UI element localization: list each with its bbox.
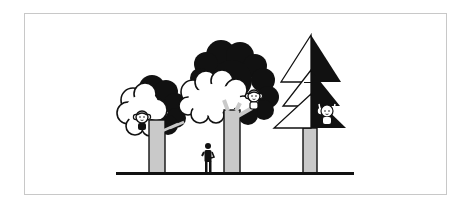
ground-line	[116, 172, 354, 175]
middle-trunk	[224, 110, 240, 173]
left-trunk	[149, 120, 165, 173]
left-tree	[117, 75, 186, 173]
middle-tree	[179, 40, 279, 173]
forest-illustration	[0, 0, 473, 208]
pine-tree	[274, 35, 346, 173]
pine-trunk	[303, 128, 317, 173]
person-icon	[202, 143, 214, 173]
